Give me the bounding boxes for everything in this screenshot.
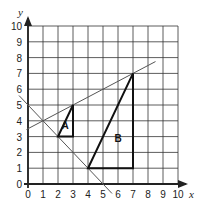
y-tick-label: 8 [16,53,22,64]
x-tick-label: 10 [172,189,184,200]
x-tick-label: 0 [25,189,31,200]
x-tick-label: 9 [160,189,166,200]
x-tick-label: 4 [85,189,91,200]
tick-labels: 012345678910012345678910xy [11,6,194,200]
x-tick-label: 1 [40,189,46,200]
x-tick-label: 8 [145,189,151,200]
x-tick-label: 5 [100,189,106,200]
x-axis-arrow-icon [178,180,188,188]
y-tick-label: 5 [16,100,22,111]
descending-ray-line [19,96,112,194]
x-axis-name: x [188,188,194,200]
y-tick-label: 1 [16,163,22,174]
y-tick-label: 7 [16,68,22,79]
x-tick-label: 2 [55,189,61,200]
y-axis-name: y [17,6,23,18]
construction-lines [19,62,156,194]
coordinate-graph: AB 012345678910012345678910xy [0,0,199,208]
triangle-label-a: A [61,120,68,131]
grid-lines [28,26,178,184]
y-axis-arrow-icon [24,16,32,26]
y-tick-label: 10 [11,21,23,32]
y-tick-label: 4 [16,116,22,127]
triangle-label-b: B [114,133,121,144]
x-tick-label: 7 [130,189,136,200]
enlargement-ray-line [27,62,156,130]
y-tick-label: 0 [16,179,22,190]
x-tick-label: 3 [70,189,76,200]
y-tick-label: 2 [16,147,22,158]
y-tick-label: 6 [16,84,22,95]
y-tick-label: 3 [16,132,22,143]
x-tick-label: 6 [115,189,121,200]
y-tick-label: 9 [16,37,22,48]
